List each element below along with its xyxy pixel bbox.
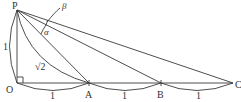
length-label-OA: 1	[50, 90, 55, 101]
segment-PA	[17, 10, 89, 83]
angle-label-alpha: α	[44, 27, 49, 37]
length-label-PO: 1	[3, 41, 8, 52]
point-label-A: A	[85, 89, 93, 100]
length-label-BC: 1	[196, 90, 201, 101]
length-label-PA: √2	[35, 61, 46, 72]
point-label-C: C	[235, 79, 241, 90]
beta-leader	[47, 8, 60, 22]
segment-PC	[17, 10, 233, 83]
length-label-AB: 1	[122, 90, 127, 101]
right-angle-marker	[17, 77, 23, 83]
segment-PB	[17, 10, 161, 83]
point-label-B: B	[157, 89, 164, 100]
angle-label-beta: β	[61, 1, 67, 11]
brace-PO	[10, 10, 18, 83]
point-label-O: O	[6, 84, 13, 95]
point-label-P: P	[12, 0, 18, 11]
geometry-diagram: P O A B C α β 1 1 1 1 √2	[0, 0, 241, 102]
